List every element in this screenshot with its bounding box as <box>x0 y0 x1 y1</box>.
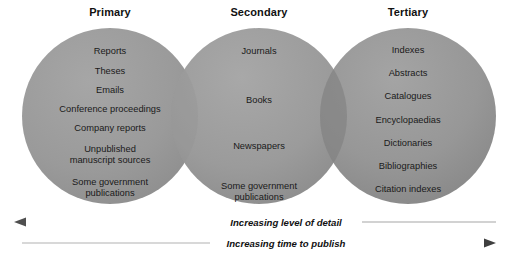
circle-item: Bibliographies <box>313 161 503 172</box>
circle-item: Indexes <box>313 45 503 56</box>
circle-item: Citation indexes <box>313 184 503 195</box>
circle-item: Theses <box>15 66 205 77</box>
circle-item: Dictionaries <box>313 138 503 149</box>
venn-diagram-figure: Primary Secondary Tertiary <box>0 0 518 260</box>
circle-item: Catalogues <box>313 91 503 102</box>
circle-item: Company reports <box>15 123 205 134</box>
axis-label-time-to-publish: Increasing time to publish <box>227 238 346 249</box>
axis-label-level-of-detail: Increasing level of detail <box>230 217 341 228</box>
circle-item: Encyclopaedias <box>313 115 503 126</box>
circle-item: Abstracts <box>313 68 503 79</box>
